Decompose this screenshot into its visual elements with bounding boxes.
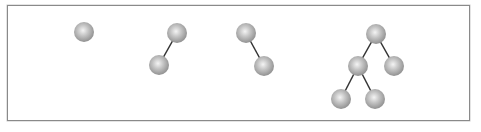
tree-1-node	[74, 22, 94, 42]
tree-4-node	[366, 24, 386, 44]
tree-4-node	[365, 89, 385, 109]
tree-3-node	[236, 23, 256, 43]
tree-4-node	[348, 56, 368, 76]
tree-3-node	[254, 56, 274, 76]
tree-2-node	[167, 23, 187, 43]
tree-4-node	[384, 56, 404, 76]
tree-2-node	[149, 55, 169, 75]
tree-diagram	[0, 0, 481, 132]
tree-4-node	[331, 89, 351, 109]
